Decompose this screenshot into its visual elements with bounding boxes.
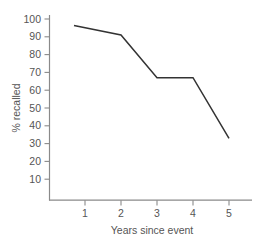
y-axis-ticks xyxy=(45,19,50,179)
y-tick-label-100: 100 xyxy=(23,13,41,25)
y-tick-label-90: 90 xyxy=(29,30,41,42)
y-tick-label-80: 80 xyxy=(29,48,41,60)
x-tick-label-5: 5 xyxy=(226,207,232,219)
x-tick-label-1: 1 xyxy=(82,207,88,219)
y-tick-label-20: 20 xyxy=(29,155,41,167)
y-axis-title: % recalled xyxy=(10,83,22,132)
x-tick-label-2: 2 xyxy=(118,207,124,219)
x-tick-label-3: 3 xyxy=(154,207,160,219)
y-tick-label-70: 70 xyxy=(29,66,41,78)
y-tick-label-40: 40 xyxy=(29,119,41,131)
x-axis-ticks xyxy=(85,200,229,205)
y-tick-label-30: 30 xyxy=(29,137,41,149)
chart-figure: 100 90 80 70 60 50 40 30 20 10 1 2 3 4 5 xyxy=(0,0,265,243)
y-tick-label-50: 50 xyxy=(29,102,41,114)
y-tick-label-10: 10 xyxy=(29,173,41,185)
x-axis-tick-labels: 1 2 3 4 5 xyxy=(82,207,232,219)
y-axis-tick-labels: 100 90 80 70 60 50 40 30 20 10 xyxy=(23,13,41,185)
y-tick-label-60: 60 xyxy=(29,84,41,96)
data-series-line xyxy=(74,26,229,139)
x-axis-title: Years since event xyxy=(111,224,194,236)
x-tick-label-4: 4 xyxy=(190,207,196,219)
line-chart-plot: 100 90 80 70 60 50 40 30 20 10 1 2 3 4 5 xyxy=(0,0,265,243)
